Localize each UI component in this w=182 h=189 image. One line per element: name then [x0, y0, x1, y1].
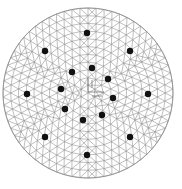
electrode-dot	[80, 117, 86, 123]
electrode-dot	[89, 65, 95, 71]
electrode-dot	[127, 134, 133, 140]
electrode-dot	[145, 91, 151, 97]
electrode-dot	[24, 91, 30, 97]
electrode-dot	[105, 76, 111, 82]
electrode-dot	[42, 134, 48, 140]
electrode-dot	[62, 106, 68, 112]
electrode-dot	[84, 152, 90, 158]
electrode-dot	[127, 48, 133, 54]
electrode-dot	[110, 95, 116, 101]
electrode-dot	[84, 30, 90, 36]
electrode-dot	[69, 69, 75, 75]
triangular-mesh	[0, 0, 182, 189]
electrode-dot	[99, 112, 105, 118]
electrode-dot	[58, 86, 64, 92]
electrode-dot	[42, 48, 48, 54]
mesh-diagram	[0, 0, 182, 189]
